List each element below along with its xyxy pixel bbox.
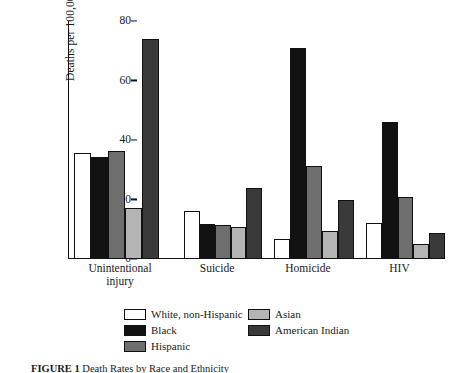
- bar: [413, 244, 429, 259]
- bar-cluster: [172, 21, 262, 259]
- bar-cluster: [262, 21, 354, 259]
- bar: [108, 151, 125, 259]
- legend-item-black: Black: [124, 325, 248, 336]
- legend-label-white-non-hispanic: White, non-Hispanic: [151, 309, 243, 320]
- legend-label-asian: Asian: [275, 309, 301, 320]
- legend-swatch-white-non-hispanic: [124, 309, 146, 320]
- bar: [398, 197, 414, 259]
- bar: [246, 188, 262, 259]
- x-axis-label: Unintentionalinjury: [68, 262, 172, 287]
- bar: [306, 166, 322, 259]
- bar-clusters: [68, 21, 445, 259]
- bar: [338, 200, 354, 259]
- bar: [382, 122, 398, 259]
- figure-caption-prefix: FIGURE 1: [31, 363, 80, 373]
- x-axis-label: Suicide: [172, 262, 262, 287]
- bar: [429, 233, 445, 259]
- bar: [215, 225, 231, 259]
- bar: [200, 224, 216, 259]
- bar-cluster: [354, 21, 445, 259]
- bar: [184, 211, 200, 259]
- x-axis-labels: UnintentionalinjurySuicideHomicideHIV: [68, 262, 445, 287]
- legend-item-white-non-hispanic: White, non-Hispanic: [124, 309, 248, 320]
- bar: [125, 208, 142, 259]
- legend-item-hispanic: Hispanic: [124, 341, 248, 352]
- bar: [366, 223, 382, 259]
- legend-item-asian: Asian: [248, 309, 376, 320]
- bar: [142, 39, 159, 259]
- figure-caption: FIGURE 1 Death Rates by Race and Ethnici…: [31, 363, 435, 373]
- chart-legend: White, non-Hispanic Asian Black American…: [124, 306, 376, 354]
- figure-caption-text: Death Rates by Race and Ethnicity: [82, 363, 229, 373]
- bar: [91, 157, 108, 259]
- x-axis-label: Homicide: [262, 262, 354, 287]
- bar: [231, 227, 247, 259]
- legend-label-american-indian: American Indian: [275, 325, 349, 336]
- bar: [322, 231, 338, 259]
- legend-item-american-indian: American Indian: [248, 325, 376, 336]
- bar-cluster: [68, 21, 172, 259]
- bar: [74, 153, 91, 259]
- legend-label-hispanic: Hispanic: [151, 341, 190, 352]
- x-axis-label: HIV: [354, 262, 445, 287]
- legend-swatch-hispanic: [124, 341, 146, 352]
- legend-swatch-black: [124, 325, 146, 336]
- bar: [290, 48, 306, 259]
- legend-swatch-american-indian: [248, 325, 270, 336]
- legend-label-black: Black: [151, 325, 177, 336]
- figure-container: Deaths per 100,000 persons 80 60 40 20 0…: [0, 0, 462, 373]
- legend-swatch-asian: [248, 309, 270, 320]
- bar: [274, 239, 290, 259]
